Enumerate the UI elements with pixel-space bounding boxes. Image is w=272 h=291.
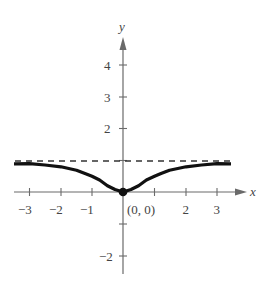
x-axis-label: x [249, 184, 256, 199]
x-tick-label: −1 [80, 202, 94, 217]
x-tick-label: 3 [214, 202, 221, 217]
x-tick-label: −2 [49, 202, 63, 217]
function-graph: x y −3 −2 −1 2 3 4 3 2 −2 (0, 0) [0, 0, 272, 291]
x-tick-label: 2 [183, 202, 190, 217]
y-axis-label: y [117, 19, 125, 34]
x-axis-arrow-icon [235, 189, 247, 196]
y-tick-label: 3 [104, 90, 111, 105]
x-tick-label: −3 [18, 202, 32, 217]
origin-point-label: (0, 0) [127, 202, 155, 217]
y-axis-arrow-icon [120, 37, 127, 50]
y-tick-label: −2 [99, 249, 113, 264]
y-tick-label: 2 [104, 121, 111, 136]
origin-point-marker [119, 188, 128, 197]
y-tick-label: 4 [104, 58, 111, 73]
